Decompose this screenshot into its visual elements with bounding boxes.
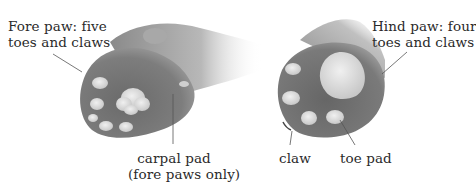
carpal-pad-label: carpal pad (fore paws only) [128, 150, 220, 182]
carpal-pad-label-line1: carpal pad [128, 150, 220, 166]
fore-paw-label-line2: toes and claws [8, 34, 110, 50]
hind-paw-label-line2: toes and claws [372, 34, 476, 50]
hind-paw-label-line1: Hind paw: four [372, 18, 476, 34]
fore-toe-pad-5 [119, 122, 133, 132]
fore-toe-pad-2 [90, 98, 104, 110]
fore-paw-leader-line [53, 54, 82, 72]
claw-label: claw [279, 150, 311, 166]
fore-toe-pad-3 [88, 114, 98, 122]
carpal-pad-label-line2: (fore paws only) [128, 166, 220, 182]
hind-toe-pad-3 [301, 111, 317, 125]
fore-toe-pad-1 [92, 77, 108, 89]
hind-toe-pad-2 [282, 91, 300, 105]
hind-paw [278, 19, 385, 137]
claw-leader-line [290, 131, 292, 145]
fore-toe-pad-4 [99, 121, 113, 131]
carpal-pad [179, 81, 189, 87]
fore-paw-label-line1: Fore paw: five [8, 18, 110, 34]
fore-paw-label: Fore paw: five toes and claws [8, 18, 110, 50]
toe-pad-label: toe pad [340, 150, 392, 166]
hind-paw-label: Hind paw: four toes and claws [372, 18, 476, 50]
hind-toe-pad-1 [285, 63, 301, 75]
hind-paw-leader-line [382, 52, 407, 74]
fore-dewclaw-bump [143, 28, 167, 44]
